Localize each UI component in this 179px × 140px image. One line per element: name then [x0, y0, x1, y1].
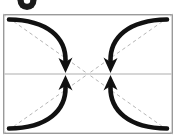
step-number-badge-icon — [18, 0, 37, 10]
diagram-canvas — [0, 0, 179, 140]
fold-instruction-diagram — [0, 0, 179, 140]
